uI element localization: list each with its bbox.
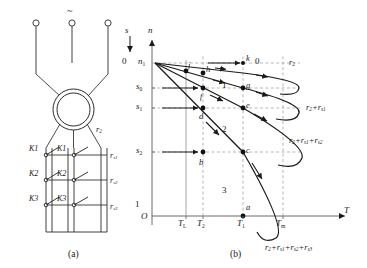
figure-wound-rotor-starting: ~ r2 K1 K1 K2 K2 K3 K3 rs1 rs2 rs3 s n T… xyxy=(0,0,367,268)
slip-axis-label: s xyxy=(125,26,129,35)
slip-tick-s2: s2 xyxy=(136,146,142,156)
panel-a-caption: (a) xyxy=(68,250,79,260)
point-label-b: b xyxy=(199,158,203,167)
resistor-rungs xyxy=(46,155,107,205)
point-label-e: e xyxy=(246,101,250,110)
slip-tick-s1: s1 xyxy=(136,102,142,112)
point-label-g: g xyxy=(246,81,250,90)
curve-label-0: r2 xyxy=(289,58,295,68)
torque-tick-TL: TL xyxy=(178,219,186,229)
stator-lead-right xyxy=(88,74,108,96)
switch-label-K1-right: K1 xyxy=(57,145,66,153)
supply-terminals xyxy=(33,20,111,74)
curve-0-r2 xyxy=(155,63,299,94)
point-label-f: f xyxy=(200,92,202,101)
curve-number-1: 1 xyxy=(222,81,227,90)
speed-axis-label: n xyxy=(148,26,153,35)
operating-points xyxy=(184,61,246,218)
point-e xyxy=(241,106,246,111)
slip-bottom-label: 1 xyxy=(135,200,140,209)
point-label-d: d xyxy=(199,112,203,121)
curve-label-3: r2+rs1+rs2+rs3 xyxy=(265,243,312,253)
supply-symbol: ~ xyxy=(67,6,72,16)
point-g xyxy=(241,86,246,91)
point-k xyxy=(241,61,245,65)
switch-label-K2-right: K2 xyxy=(57,170,66,178)
stage-resistor-label-rs2: rs2 xyxy=(110,177,118,186)
switch-label-K1-left: K1 xyxy=(29,145,38,153)
point-c xyxy=(241,150,246,155)
point-h xyxy=(201,71,206,76)
switch-label-K3-right: K3 xyxy=(57,195,66,203)
stage-resistor-label-rs1: rs1 xyxy=(110,152,118,161)
point-b xyxy=(201,150,206,155)
switch-label-K2-left: K2 xyxy=(29,170,38,178)
curve-number-3: 3 xyxy=(222,186,227,195)
curve-number-0: 0 xyxy=(255,57,260,66)
torque-axis-label: T xyxy=(344,206,349,215)
slip-top-label: 0 xyxy=(122,57,127,66)
torque-tick-Tm: Tm xyxy=(276,219,285,229)
rotor-resistance-label: r2 xyxy=(96,125,102,135)
point-label-k: k xyxy=(246,54,250,63)
panel-b-caption: (b) xyxy=(230,250,241,260)
sync-speed-label: n1 xyxy=(138,57,145,67)
torque-tick-T2: T2 xyxy=(197,219,205,229)
slip-tick-s0: s0 xyxy=(136,82,142,92)
point-d xyxy=(201,106,206,111)
curve-label-1: r2+rs1 xyxy=(306,103,326,113)
switch-label-K3-left: K3 xyxy=(29,195,38,203)
stage-resistor-label-rs3: rs3 xyxy=(110,203,118,212)
point-label-h: h xyxy=(206,65,210,74)
stator-lead-left xyxy=(36,74,60,96)
curve-label-2: r2+rs1+rs2 xyxy=(289,136,322,146)
point-f xyxy=(201,86,206,91)
point-label-j: j xyxy=(188,61,190,70)
rotor-bus-bars xyxy=(46,148,107,232)
point-label-a: a xyxy=(246,203,250,212)
motor-symbol xyxy=(53,89,94,130)
torque-tick-T1: T1 xyxy=(237,219,245,229)
origin-label: O xyxy=(141,212,148,221)
point-label-c: c xyxy=(246,146,250,155)
curve-number-2: 2 xyxy=(222,125,227,134)
